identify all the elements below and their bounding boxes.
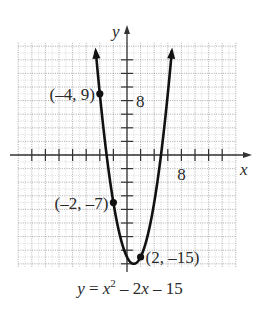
- point-label: (–4, 9): [49, 85, 94, 104]
- eq-equals: =: [85, 279, 103, 298]
- point-marker: [96, 90, 103, 97]
- point-label: (–2, –7): [55, 194, 109, 213]
- point-label: (2, –15): [146, 248, 200, 267]
- parabola-chart: (–4, 9)(–2, –7)(2, –15) 88xy: [0, 0, 260, 321]
- point-marker: [110, 199, 117, 206]
- x-axis-label: x: [239, 160, 248, 179]
- x-tick-label: 8: [177, 165, 186, 184]
- point-marker: [137, 253, 144, 260]
- eq-const: – 15: [149, 279, 183, 298]
- axis-labels: 88xy: [110, 22, 248, 184]
- equation-label: y = x2 – 2x – 15: [0, 277, 260, 299]
- eq-term: – 2: [116, 279, 142, 298]
- y-tick-label: 8: [136, 92, 145, 111]
- y-axis-arrow-icon: [124, 25, 130, 34]
- eq-y: y: [77, 279, 85, 298]
- y-axis-label: y: [110, 22, 120, 41]
- x-axis-arrow-icon: [243, 152, 252, 158]
- eq-x2: x: [141, 279, 149, 298]
